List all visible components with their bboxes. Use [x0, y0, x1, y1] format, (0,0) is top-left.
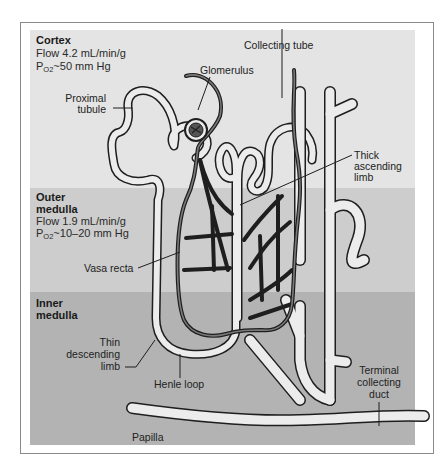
- label-papilla: Papilla: [132, 431, 164, 443]
- label-terminal-collecting-duct-2: collecting: [357, 376, 401, 388]
- label-collecting-tube: Collecting tube: [244, 39, 314, 51]
- label-terminal-collecting-duct-3: duct: [369, 388, 389, 400]
- label-thick-ascending-limb-3: limb: [354, 171, 373, 183]
- label-thin-descending-limb-1: Thin: [100, 336, 121, 348]
- label-terminal-collecting-duct-1: Terminal: [359, 364, 399, 376]
- inner-medulla-title-1: Inner: [36, 297, 64, 309]
- label-glomerulus: Glomerulus: [200, 64, 254, 76]
- label-henle-loop: Henle loop: [154, 378, 204, 390]
- kidney-zonation-diagram: Cortex Flow 4.2 mL/min/g PO2~50 mm Hg Ou…: [0, 0, 447, 466]
- glomerulus-structure: [185, 119, 207, 141]
- cortex-title: Cortex: [36, 34, 72, 46]
- outer-medulla-title-2: medulla: [36, 203, 78, 215]
- label-thin-descending-limb-3: limb: [101, 360, 120, 372]
- cortex-flow: Flow 4.2 mL/min/g: [36, 47, 126, 59]
- label-vasa-recta: Vasa recta: [84, 262, 134, 274]
- outer-medulla-flow: Flow 1.9 mL/min/g: [36, 215, 126, 227]
- outer-medulla-title-1: Outer: [36, 191, 66, 203]
- label-thin-descending-limb-2: descending: [66, 348, 120, 360]
- inner-medulla-title-2: medulla: [36, 309, 78, 321]
- label-proximal-tubule-2: tubule: [77, 103, 106, 115]
